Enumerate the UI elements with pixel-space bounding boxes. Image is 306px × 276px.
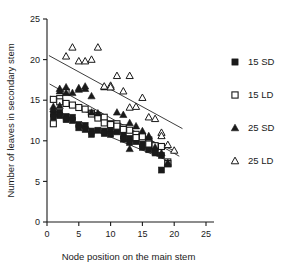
data-point-25-ld: [82, 57, 89, 63]
data-point-15-sd: [139, 144, 145, 150]
data-point-15-sd: [69, 118, 75, 124]
x-axis-title: Node position on the main stem: [62, 251, 196, 262]
data-point-15-ld: [114, 123, 120, 129]
data-point-25-ld: [132, 103, 139, 109]
data-point-15-ld: [120, 126, 126, 132]
data-point-15-ld: [158, 143, 164, 149]
data-point-15-ld: [101, 120, 107, 126]
data-point-25-sd: [88, 92, 95, 98]
data-point-15-sd: [114, 129, 120, 135]
data-point-25-sd: [113, 109, 120, 115]
legend-label-15-ld: 15 LD: [248, 89, 273, 100]
axis-labels: 05101520250510152025Node position on the…: [5, 14, 211, 262]
data-point-15-ld: [69, 102, 75, 108]
data-point-25-ld: [145, 114, 152, 120]
data-point-25-ld: [88, 56, 95, 62]
data-point-25-ld: [164, 141, 171, 147]
data-point-15-sd: [57, 113, 63, 119]
data-point-15-sd: [120, 136, 126, 142]
data-point-25-sd: [139, 127, 146, 133]
data-point-15-sd: [63, 117, 69, 123]
data-point-15-ld: [127, 127, 133, 133]
data-point-25-ld: [69, 44, 76, 50]
data-point-15-ld: [133, 135, 139, 141]
data-point-15-sd: [89, 131, 95, 137]
scatter-plot: 05101520250510152025Node position on the…: [0, 0, 306, 276]
x-tick-label: 20: [169, 229, 179, 239]
data-point-15-sd: [95, 127, 101, 133]
data-point-15-sd: [146, 147, 152, 153]
legend-label-25-ld: 25 LD: [248, 155, 273, 166]
data-point-15-sd: [108, 131, 114, 137]
data-points: [50, 44, 178, 173]
data-point-25-sd: [120, 111, 127, 117]
data-point-15-ld: [63, 100, 69, 106]
data-point-25-ld: [139, 94, 146, 100]
x-tick-label: 25: [201, 229, 211, 239]
y-tick-label: 15: [30, 95, 40, 105]
data-point-15-sd: [158, 167, 164, 173]
data-point-15-sd: [101, 130, 107, 136]
chart-figure: 05101520250510152025Node position on the…: [0, 0, 306, 276]
y-tick-label: 20: [30, 55, 40, 65]
data-point-25-ld: [126, 72, 133, 78]
data-point-15-sd: [50, 114, 56, 120]
legend-marker-15-ld: [232, 92, 238, 98]
data-point-15-sd: [82, 126, 88, 132]
x-tick-label: 0: [44, 229, 49, 239]
data-point-15-ld: [82, 106, 88, 112]
y-tick-label: 10: [30, 136, 40, 146]
x-tick-label: 5: [76, 229, 81, 239]
data-point-25-ld: [75, 57, 82, 63]
data-point-25-ld: [113, 72, 120, 78]
data-point-15-sd: [152, 150, 158, 156]
data-point-25-ld: [62, 53, 69, 59]
data-point-25-sd: [126, 119, 133, 125]
data-point-25-ld: [120, 88, 127, 94]
legend-marker-15-sd: [232, 59, 238, 65]
legend: 15 SD15 LD25 SD25 LD: [231, 56, 274, 166]
x-tick-label: 15: [137, 229, 147, 239]
data-point-15-sd: [76, 125, 82, 131]
y-axis-title: Number of leaves in secondary stem: [5, 43, 16, 197]
data-point-15-ld: [101, 114, 107, 120]
data-point-15-ld: [139, 134, 145, 140]
data-point-15-ld: [146, 141, 152, 147]
data-point-15-ld: [76, 105, 82, 111]
legend-label-15-sd: 15 SD: [248, 56, 275, 67]
y-tick-label: 25: [30, 14, 40, 24]
legend-marker-25-ld: [231, 157, 238, 164]
legend-marker-25-sd: [231, 124, 238, 131]
legend-label-25-sd: 25 SD: [248, 122, 275, 133]
data-point-25-ld: [94, 44, 101, 50]
y-tick-label: 0: [35, 217, 40, 227]
data-point-15-ld: [50, 121, 56, 127]
data-point-25-ld: [152, 115, 159, 121]
data-point-15-ld: [50, 96, 56, 102]
data-point-15-sd: [127, 139, 133, 145]
y-tick-label: 5: [35, 177, 40, 187]
x-tick-label: 10: [106, 229, 116, 239]
data-point-15-ld: [108, 122, 114, 128]
